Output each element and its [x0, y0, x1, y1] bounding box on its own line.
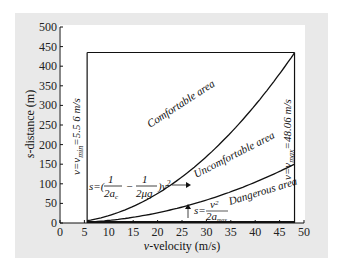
x-tick-label: 50 [298, 225, 310, 239]
y-tick-label: 300 [39, 98, 57, 112]
x-tick-label: 15 [127, 225, 139, 239]
chart: 0510152025303540455005010015020025030035… [0, 0, 342, 270]
x-tick-label: 25 [176, 225, 188, 239]
y-tick-label: 450 [39, 40, 57, 54]
y-tick-label: 250 [39, 118, 57, 132]
x-tick-label: 0 [57, 225, 63, 239]
y-tick-label: 500 [39, 20, 57, 34]
svg-text:1: 1 [142, 173, 148, 185]
y-axis-label: s-distance (m) [23, 90, 37, 158]
x-tick-label: 40 [249, 225, 261, 239]
svg-text:2μg: 2μg [136, 187, 153, 199]
y-tick-label: 100 [39, 177, 57, 191]
x-tick-label: 5 [81, 225, 87, 239]
x-tick-label: 30 [200, 225, 212, 239]
svg-text:−: − [126, 180, 133, 192]
x-axis-label: v-velocity (m/s) [144, 239, 220, 253]
x-tick-label: 35 [225, 225, 237, 239]
x-tick-label: 20 [152, 225, 164, 239]
y-tick-label: 350 [39, 79, 57, 93]
svg-text:1: 1 [108, 173, 114, 185]
x-tick-label: 45 [274, 225, 286, 239]
y-tick-label: 400 [39, 59, 57, 73]
y-tick-label: 50 [45, 196, 57, 210]
y-tick-label: 200 [39, 138, 57, 152]
y-tick-label: 0 [51, 216, 57, 230]
y-tick-label: 150 [39, 157, 57, 171]
svg-text:s=: s= [194, 204, 206, 216]
x-tick-label: 10 [103, 225, 115, 239]
